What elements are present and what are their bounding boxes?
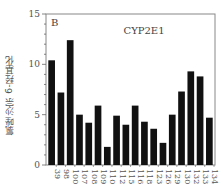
bar-chart: 051015 399810010710810911011211511611812… bbox=[0, 0, 223, 195]
x-tick-label: 133 bbox=[201, 169, 210, 184]
x-tick-label: 115 bbox=[127, 169, 136, 184]
bar bbox=[104, 147, 111, 165]
x-tick-label: 107 bbox=[80, 169, 89, 184]
panel-label: B bbox=[51, 17, 58, 28]
bar bbox=[160, 143, 167, 165]
bar bbox=[150, 129, 157, 165]
x-tick-label: 130 bbox=[183, 169, 192, 184]
bar bbox=[123, 125, 130, 165]
x-tick-label: 39 bbox=[53, 169, 62, 179]
y-axis-ticks: 051015 bbox=[29, 9, 46, 170]
x-axis-ticks: 3998100107108109110112115116118123126129… bbox=[53, 165, 220, 184]
y-tick-label: 0 bbox=[34, 160, 40, 170]
chart-title: CYP2E1 bbox=[123, 25, 164, 36]
bars bbox=[48, 40, 212, 165]
x-tick-label: 118 bbox=[145, 169, 154, 184]
x-tick-label: 112 bbox=[118, 169, 127, 184]
x-tick-label: 123 bbox=[155, 169, 164, 184]
x-tick-label: 110 bbox=[108, 169, 117, 184]
bar bbox=[178, 92, 185, 165]
bar bbox=[58, 93, 65, 165]
x-tick-label: 134 bbox=[210, 169, 219, 184]
bar bbox=[85, 123, 92, 165]
x-tick-label: 108 bbox=[90, 169, 99, 184]
bar bbox=[48, 60, 55, 165]
bar bbox=[67, 40, 74, 165]
x-tick-label: 98 bbox=[62, 169, 71, 179]
x-tick-label: 132 bbox=[192, 169, 201, 184]
x-tick-label: 100 bbox=[71, 169, 80, 184]
y-tick-label: 5 bbox=[34, 110, 40, 120]
bar bbox=[197, 76, 204, 165]
x-tick-label: 109 bbox=[99, 169, 108, 184]
bar bbox=[132, 106, 139, 165]
bar bbox=[76, 115, 83, 165]
y-tick-label: 15 bbox=[29, 9, 41, 19]
bar bbox=[113, 116, 120, 165]
bar bbox=[95, 106, 102, 165]
x-tick-label: 126 bbox=[164, 169, 173, 184]
bar bbox=[141, 122, 148, 165]
x-tick-label: 116 bbox=[136, 169, 145, 184]
y-tick-label: 10 bbox=[29, 59, 41, 69]
bar bbox=[206, 118, 213, 165]
bar bbox=[169, 115, 176, 165]
bar bbox=[187, 71, 194, 165]
x-tick-label: 129 bbox=[173, 169, 182, 184]
